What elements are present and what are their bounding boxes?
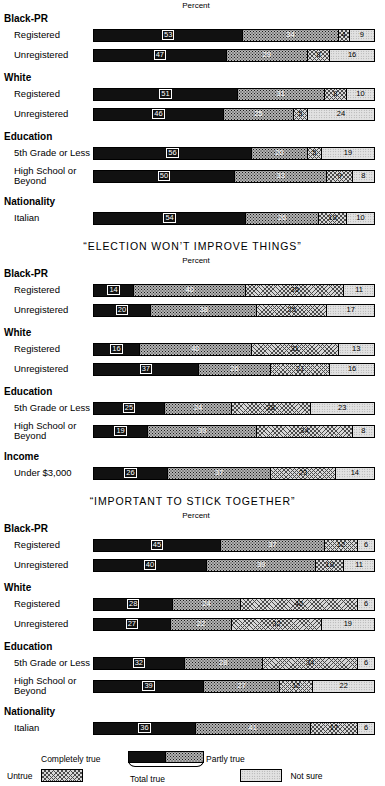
stacked-bar: 533449 [93, 29, 375, 42]
bar-value: 8 [360, 172, 366, 180]
bar-segment-partly-true: 24 [172, 599, 239, 610]
bar-value: 4 [341, 31, 347, 39]
bar-value: 10 [355, 214, 365, 222]
bar-segment-untrue: 5 [307, 148, 321, 159]
legend-label-untrue: Untrue [7, 771, 33, 781]
bar-value: 51 [159, 89, 171, 99]
chart-row: High School or Beyond1939348 [0, 419, 385, 443]
bar-value: 33 [276, 172, 286, 180]
row-label: Registered [0, 599, 93, 610]
bar-value: 28 [218, 659, 228, 667]
chart-row: Unregistered20382517 [0, 301, 385, 319]
bar-value: 22 [196, 620, 206, 628]
group-heading: Black-PR [0, 521, 385, 536]
bar-value: 6 [363, 541, 369, 549]
row-label: Unregistered [0, 560, 93, 571]
bar-value: 20 [116, 305, 128, 315]
chart-panel: “IMPORTANT TO STICK TOGETHER”PercentBlac… [0, 488, 385, 743]
bar-segment-not-sure: 19 [321, 619, 374, 630]
bar-value: 40 [190, 345, 200, 353]
bar-value: 27 [236, 682, 246, 690]
group-heading: White [0, 325, 385, 340]
legend-swatch-untrue [41, 769, 83, 782]
panel-title: “ELECTION WON’T IMPROVE THINGS” [0, 233, 385, 255]
group-heading: Education [0, 129, 385, 144]
group-heading: Education [0, 384, 385, 399]
stacked-bar: 4625524 [93, 108, 375, 121]
bar-value: 16 [347, 51, 357, 59]
bar-segment-untrue: 10 [315, 560, 343, 571]
bar-value: 14 [107, 285, 119, 295]
bar-value: 19 [114, 426, 126, 436]
chart-row: Registered14403511 [0, 281, 385, 299]
row-label: Under $3,000 [0, 468, 93, 479]
bar-value: 35 [290, 286, 300, 294]
bar-segment-untrue: 35 [245, 285, 343, 296]
bar-segment-partly-true: 22 [170, 619, 232, 630]
bar-segment-untrue: 17 [310, 723, 358, 734]
chart-row: Unregistered37262116 [0, 360, 385, 378]
bar-segment-not-sure: 17 [326, 305, 374, 316]
bar-value: 19 [343, 149, 353, 157]
bar-segment-not-sure: 19 [321, 148, 374, 159]
bar-value: 34 [305, 659, 315, 667]
chart-legend: Completely true Partly true Total true U… [0, 747, 385, 786]
bar-segment-partly-true: 37 [220, 540, 324, 551]
group-heading: Nationality [0, 194, 385, 209]
bar-segment-not-sure: 6 [357, 723, 374, 734]
chart-row: High School or Beyond39271222 [0, 674, 385, 698]
bar-value: 24 [336, 110, 346, 118]
bar-value: 42 [294, 600, 304, 608]
bar-segment-partly-true: 26 [198, 364, 271, 375]
bar-segment-completely-true: 46 [94, 109, 223, 120]
bar-segment-partly-true: 34 [242, 30, 337, 41]
bar-value: 36 [138, 723, 150, 733]
stacked-bar: 16403113 [93, 343, 375, 356]
bar-value: 12 [336, 541, 346, 549]
bar-value: 45 [151, 540, 163, 550]
bar-segment-partly-true: 39 [147, 426, 256, 437]
bar-value: 37 [267, 541, 277, 549]
bar-segment-not-sure: 16 [329, 50, 374, 61]
bar-segment-not-sure: 16 [329, 364, 374, 375]
bar-value: 27 [126, 619, 138, 629]
bar-segment-untrue: 5 [293, 109, 307, 120]
bar-segment-untrue: 8 [307, 50, 329, 61]
row-label: Unregistered [0, 305, 93, 316]
bar-value: 23 [337, 404, 347, 412]
bar-segment-untrue: 31 [251, 344, 338, 355]
bar-value: 39 [142, 681, 154, 691]
bar-value: 38 [199, 306, 209, 314]
bar-value: 17 [346, 306, 356, 314]
stacked-bar: 37262116 [93, 363, 375, 376]
row-label: Unregistered [0, 109, 93, 120]
stacked-bar: 3228346 [93, 657, 375, 670]
stacked-bar: 25242823 [93, 402, 375, 415]
bar-segment-partly-true: 40 [133, 285, 245, 296]
bar-value: 39 [256, 561, 266, 569]
total-true-brace [128, 760, 204, 767]
bar-segment-not-sure: 10 [346, 213, 374, 224]
group-heading: White [0, 70, 385, 85]
bar-value: 21 [295, 365, 305, 373]
bar-segment-partly-true: 26 [245, 213, 318, 224]
bar-value: 46 [152, 109, 164, 119]
bar-value: 6 [363, 659, 369, 667]
bar-segment-partly-true: 27 [203, 681, 279, 692]
bar-value: 34 [285, 31, 295, 39]
chart-row: Unregistered40391011 [0, 556, 385, 574]
bar-segment-untrue: 42 [240, 599, 358, 610]
bar-segment-completely-true: 56 [94, 148, 251, 159]
bar-segment-completely-true: 36 [94, 723, 195, 734]
bar-segment-completely-true: 39 [94, 681, 203, 692]
bar-value: 16 [110, 344, 122, 354]
bar-segment-completely-true: 14 [94, 285, 133, 296]
bar-value: 40 [185, 286, 195, 294]
stacked-bar: 14403511 [93, 284, 375, 297]
bar-segment-completely-true: 51 [94, 89, 237, 100]
axis-label-percent: Percent [95, 510, 385, 521]
row-label: High School or Beyond [0, 166, 93, 187]
chart-row: 5th Grade or Less3228346 [0, 654, 385, 672]
chart-panel: “ELECTION WON’T IMPROVE THINGS”PercentBl… [0, 233, 385, 488]
row-label: Registered [0, 89, 93, 100]
